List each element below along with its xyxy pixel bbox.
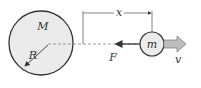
force-label: F (108, 51, 117, 64)
velocity-arrow-icon (164, 36, 186, 52)
distance-label: x (116, 6, 123, 19)
radius-label: R (28, 49, 37, 62)
large-mass-label: M (36, 20, 49, 33)
gravity-diagram: M R x F m v (0, 0, 201, 88)
small-mass-label: m (147, 38, 157, 51)
velocity-label: v (175, 53, 182, 66)
